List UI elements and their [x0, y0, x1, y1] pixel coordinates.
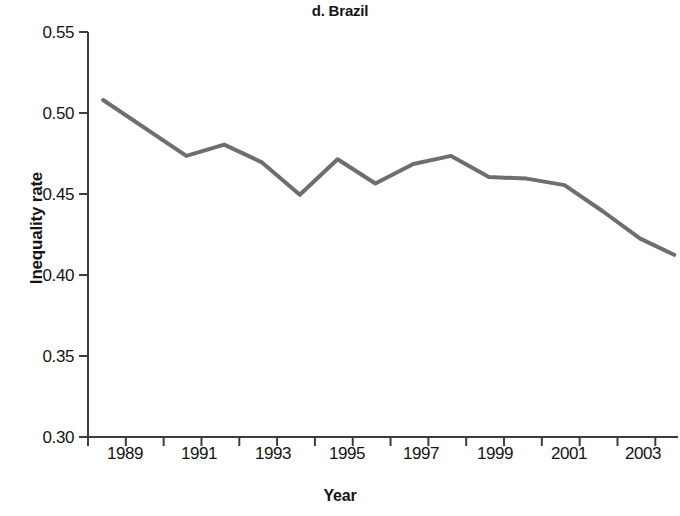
plot-area [0, 0, 680, 516]
x-tick-marks [88, 437, 655, 446]
y-tick-marks [79, 32, 88, 437]
chart-figure: d. Brazil Inequality rate Year 0.55 0.50… [0, 0, 680, 516]
axes [88, 32, 678, 437]
data-line-series-inequality-rate [103, 100, 674, 255]
